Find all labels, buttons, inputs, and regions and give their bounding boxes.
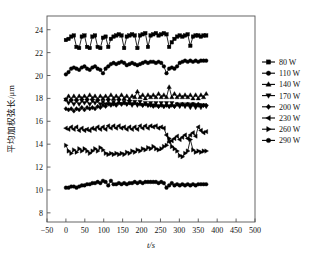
- data-marker: [83, 34, 87, 38]
- data-marker: [151, 93, 155, 97]
- series-140-w: [64, 85, 209, 101]
- data-marker: [205, 149, 209, 153]
- data-marker: [156, 92, 160, 96]
- x-tick-label: 100: [98, 226, 110, 235]
- data-marker: [167, 45, 171, 49]
- data-marker: [162, 93, 166, 97]
- legend-label-7: 290 W: [279, 136, 301, 145]
- data-marker: [67, 70, 71, 74]
- data-marker: [162, 65, 166, 69]
- data-marker: [72, 103, 76, 107]
- series-260-w: [64, 136, 208, 159]
- legend-marker-triangle-left-icon: [266, 115, 271, 120]
- data-marker: [170, 41, 174, 45]
- x-tick-label: 50: [81, 226, 89, 235]
- x-axis-title: t/s: [147, 240, 156, 250]
- data-marker: [88, 46, 92, 50]
- data-marker: [144, 31, 148, 34]
- legend-marker-diamond-icon: [266, 104, 271, 109]
- chart-figure: −500501001502002503003504004505008101214…: [0, 0, 329, 265]
- data-marker: [98, 68, 102, 72]
- legend-label-1: 110 W: [279, 69, 301, 78]
- legend-marker-circle-icon: [266, 71, 270, 75]
- data-marker: [175, 65, 179, 69]
- data-marker: [98, 94, 102, 98]
- y-tick-label: 12: [35, 163, 43, 172]
- y-tick-label: 8: [39, 209, 43, 218]
- data-marker: [66, 101, 70, 105]
- data-marker: [189, 44, 193, 48]
- data-marker: [146, 45, 150, 49]
- x-tick-label: 450: [230, 226, 242, 235]
- x-tick-label: 500: [249, 226, 261, 235]
- x-tick-label: 200: [136, 226, 148, 235]
- y-tick-label: 16: [35, 117, 43, 126]
- legend-marker-square-icon: [266, 60, 270, 64]
- data-marker: [167, 85, 171, 89]
- data-marker: [146, 93, 150, 97]
- legend-label-0: 80 W: [279, 58, 297, 67]
- legend-marker-circle-icon: [266, 138, 270, 142]
- data-marker: [165, 71, 169, 75]
- data-marker: [93, 94, 97, 98]
- x-tick-label: 300: [173, 226, 185, 235]
- legend-label-4: 200 W: [279, 103, 301, 112]
- data-marker: [162, 181, 166, 185]
- data-marker: [72, 34, 76, 38]
- data-marker: [188, 93, 192, 97]
- data-marker: [66, 94, 70, 98]
- data-marker: [120, 34, 124, 38]
- data-marker: [140, 93, 144, 97]
- chart-canvas: −500501001502002503003504004505008101214…: [0, 0, 329, 265]
- data-marker: [133, 34, 137, 38]
- data-marker: [72, 94, 76, 98]
- data-marker: [106, 184, 110, 188]
- data-marker: [88, 103, 92, 107]
- series-80-w: [64, 31, 208, 49]
- data-marker: [172, 92, 176, 96]
- data-marker: [204, 59, 208, 63]
- data-marker: [104, 35, 108, 39]
- data-marker: [109, 179, 113, 183]
- legend-label-2: 140 W: [279, 80, 301, 89]
- data-marker: [103, 94, 107, 98]
- data-marker: [199, 93, 203, 97]
- data-marker: [204, 182, 208, 186]
- data-marker: [99, 46, 103, 50]
- data-marker: [125, 94, 129, 98]
- data-marker: [77, 46, 81, 50]
- data-marker: [93, 34, 97, 38]
- x-tick-label: 350: [192, 226, 204, 235]
- series-290-w: [64, 179, 208, 190]
- data-marker: [204, 34, 208, 38]
- x-tick-label: 250: [154, 226, 166, 235]
- x-tick-label: 150: [117, 226, 129, 235]
- y-tick-label: 20: [35, 72, 43, 81]
- y-tick-label: 14: [35, 140, 43, 149]
- legend-label-3: 170 W: [279, 92, 301, 101]
- data-marker: [107, 45, 111, 49]
- data-marker: [183, 93, 187, 97]
- data-marker: [93, 101, 97, 105]
- data-marker: [77, 94, 81, 98]
- data-marker: [82, 101, 86, 105]
- legend-marker-triangle-right-icon: [267, 127, 272, 132]
- data-marker: [178, 93, 182, 97]
- data-marker: [204, 92, 208, 96]
- data-marker: [82, 94, 86, 98]
- data-marker: [77, 103, 81, 107]
- series-110-w: [64, 59, 208, 76]
- data-marker: [193, 93, 197, 97]
- data-marker: [109, 93, 113, 97]
- legend-label-5: 230 W: [279, 114, 301, 123]
- series-230-w: [64, 124, 208, 144]
- y-tick-label: 22: [35, 49, 43, 58]
- data-marker: [114, 94, 118, 98]
- data-marker: [186, 33, 190, 37]
- data-marker: [165, 33, 169, 37]
- y-axis-title: 平均加权弦长/μm: [6, 85, 16, 153]
- data-marker: [136, 46, 140, 50]
- x-tick-label: −50: [41, 226, 54, 235]
- x-tick-label: 0: [64, 226, 68, 235]
- data-marker: [135, 89, 139, 93]
